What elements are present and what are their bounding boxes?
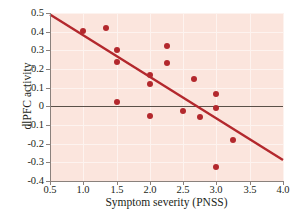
data-point [230, 137, 236, 143]
data-point [80, 28, 86, 34]
x-axis-tick-label: 4.0 [268, 183, 296, 196]
gridline-vertical [283, 13, 284, 181]
data-point [114, 47, 120, 53]
x-axis-tick-label: 3.5 [235, 183, 265, 196]
x-axis-line [50, 181, 284, 182]
data-point [164, 60, 170, 66]
y-axis-tick [46, 50, 50, 51]
data-point [180, 108, 186, 114]
y-axis-title: dlPFC activity [21, 16, 33, 176]
data-point [147, 81, 153, 87]
x-axis-tick-label: 1.5 [102, 183, 132, 196]
data-point [164, 43, 170, 49]
data-point [147, 113, 153, 119]
y-axis-tick [46, 69, 50, 70]
x-axis-tick-label: 3.0 [201, 183, 231, 196]
x-axis-tick-label: 2.0 [135, 183, 165, 196]
data-point [147, 72, 153, 78]
scatter-chart: 0.51.01.52.02.53.03.54.0 0.50.40.30.20.1… [0, 0, 296, 213]
y-axis-tick [46, 13, 50, 14]
y-axis-tick [46, 181, 50, 182]
y-axis-tick [46, 144, 50, 145]
y-axis-tick [46, 162, 50, 163]
plot-area [50, 13, 283, 181]
x-axis-tick-label: 2.5 [168, 183, 198, 196]
x-axis-title: Symptom severity (PNSS) [50, 196, 283, 208]
data-point [197, 114, 203, 120]
data-point [103, 25, 109, 31]
y-axis-tick [46, 125, 50, 126]
regression-line-segment [50, 14, 283, 159]
y-axis-tick [46, 88, 50, 89]
data-point [114, 99, 120, 105]
y-axis-tick [46, 106, 50, 107]
y-axis-line [50, 13, 51, 182]
x-axis-tick-label: 1.0 [68, 183, 98, 196]
regression-line [50, 13, 283, 181]
y-axis-tick [46, 32, 50, 33]
